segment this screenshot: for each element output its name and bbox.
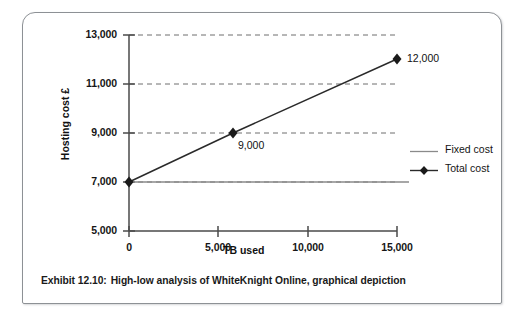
series-total-cost-markers: [125, 54, 402, 188]
exhibit-frame: 13,000 11,000 9,000 7,000 5,000 0 5,000 …: [22, 12, 502, 304]
ytick-label-13000: 13,000: [43, 28, 117, 40]
xtick-label-0: 0: [109, 241, 149, 253]
data-point-5800-9000: [229, 128, 238, 139]
ytick-label-9000: 9,000: [43, 126, 117, 138]
legend-item-fixed-cost: Fixed cost: [409, 139, 505, 158]
legend-label-fixed-cost: Fixed cost: [445, 143, 493, 155]
xtick-label-15000: 15,000: [364, 241, 430, 253]
y-axis-title: Hosting cost £: [59, 64, 71, 184]
ytick-label-7000: 7,000: [43, 175, 117, 187]
legend-swatch-line-icon: [409, 143, 439, 154]
exhibit-caption: Exhibit 12.10:High-low analysis of White…: [41, 275, 406, 286]
xtick-label-10000: 10,000: [275, 241, 341, 253]
gridlines: [129, 35, 397, 182]
data-point-0-7000: [125, 177, 134, 188]
exhibit-caption-number: Exhibit 12.10:: [41, 275, 107, 286]
data-label-12000: 12,000: [407, 52, 439, 64]
legend-label-total-cost: Total cost: [445, 162, 489, 174]
exhibit-caption-text: High-low analysis of WhiteKnight Online,…: [111, 275, 406, 286]
data-label-9000: 9,000: [238, 139, 264, 151]
ytick-label-5000: 5,000: [43, 224, 117, 236]
legend-item-total-cost: Total cost: [409, 158, 505, 177]
chart-legend: Fixed cost Total cost: [409, 139, 505, 177]
ytick-label-11000: 11,000: [43, 77, 117, 89]
chart-plot-area: 13,000 11,000 9,000 7,000 5,000 0 5,000 …: [23, 13, 503, 305]
legend-swatch-diamond-icon: [409, 162, 439, 173]
data-point-15000-12000: [393, 54, 402, 65]
x-axis-title: TB used: [223, 244, 264, 256]
series-total-cost-line: [129, 59, 397, 182]
